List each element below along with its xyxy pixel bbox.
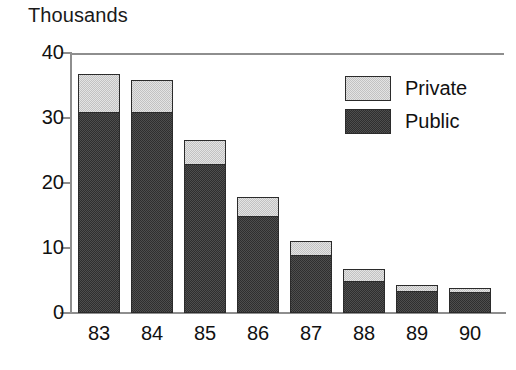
bar-segment-private-84 xyxy=(131,80,173,112)
bar-segment-public-84 xyxy=(131,112,173,314)
bar-segment-public-83 xyxy=(78,112,120,314)
bar-segment-private-85 xyxy=(184,140,226,164)
x-tick-label-88: 88 xyxy=(343,322,385,345)
bar-segment-public-86 xyxy=(237,216,279,314)
x-tick-label-87: 87 xyxy=(290,322,332,345)
bar-84 xyxy=(131,80,173,313)
bar-segment-private-86 xyxy=(237,197,279,217)
bar-89 xyxy=(396,285,438,313)
legend-label-private: Private xyxy=(405,77,467,100)
bar-85 xyxy=(184,140,226,313)
y-tick-label-20: 20 xyxy=(42,172,64,192)
legend-item-private: Private xyxy=(345,72,467,105)
bar-segment-public-89 xyxy=(396,291,438,313)
x-tick-label-85: 85 xyxy=(184,322,226,345)
x-tick-label-86: 86 xyxy=(237,322,279,345)
bar-86 xyxy=(237,197,279,313)
x-tick-label-90: 90 xyxy=(449,322,491,345)
bar-segment-public-87 xyxy=(290,255,332,313)
chart-title: Thousands xyxy=(28,4,128,27)
chart-legend: Private Public xyxy=(345,72,467,138)
bar-segment-private-87 xyxy=(290,241,332,256)
bar-83 xyxy=(78,74,120,313)
bar-segment-public-90 xyxy=(449,292,491,313)
bar-segment-private-83 xyxy=(78,74,120,112)
private-swatch-icon xyxy=(345,76,391,101)
x-tick-label-89: 89 xyxy=(396,322,438,345)
legend-label-public: Public xyxy=(405,110,459,133)
y-tick-label-10: 10 xyxy=(42,237,64,257)
bar-segment-public-85 xyxy=(184,164,226,314)
bar-87 xyxy=(290,241,332,313)
bar-segment-private-88 xyxy=(343,269,385,281)
public-swatch-icon xyxy=(345,109,391,134)
y-tick-label-0: 0 xyxy=(53,302,64,322)
legend-item-public: Public xyxy=(345,105,467,138)
x-tick-label-84: 84 xyxy=(131,322,173,345)
stacked-bar-chart: Thousands 010203040 8384858687888990 Pri… xyxy=(0,0,516,370)
bar-segment-public-88 xyxy=(343,281,385,314)
y-tick-label-40: 40 xyxy=(42,42,64,62)
bar-88 xyxy=(343,269,385,313)
bar-segment-private-90 xyxy=(449,288,491,293)
bar-90 xyxy=(449,288,491,313)
bar-segment-private-89 xyxy=(396,285,438,292)
x-tick-label-83: 83 xyxy=(78,322,120,345)
y-tick-label-30: 30 xyxy=(42,107,64,127)
